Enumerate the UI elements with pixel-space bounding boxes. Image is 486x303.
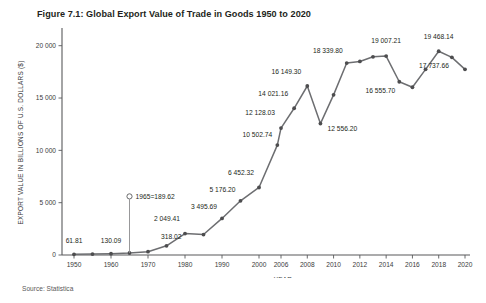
data-point-marker: [463, 67, 467, 71]
x-axis-title: YEAR: [274, 276, 293, 278]
data-point-label: 16 149.30: [272, 68, 302, 75]
data-point-marker: [109, 252, 113, 256]
x-tick-label: 2000: [252, 261, 267, 268]
x-tick-label: 2014: [379, 261, 394, 268]
x-tick-label: 2006: [274, 261, 289, 268]
data-point-label: 130.09: [101, 237, 122, 244]
y-tick-label: 5 000: [39, 199, 56, 206]
data-point-label: 61.81: [66, 237, 83, 244]
series-polyline: [74, 51, 465, 254]
data-point-label: 19 468.14: [424, 33, 454, 40]
data-point-marker: [220, 217, 224, 221]
data-point-marker: [202, 233, 206, 237]
x-tick-label: 1950: [67, 261, 82, 268]
figure-title: Figure 7.1: Global Export Value of Trade…: [37, 9, 311, 19]
y-tick-label: 10 000: [36, 147, 57, 154]
chart-axes: 05 00010 00015 00020 0001950196019701980…: [36, 28, 473, 268]
y-tick-label: 20 000: [36, 42, 57, 49]
data-point-marker: [437, 49, 441, 53]
x-axis-title-text: YEAR: [274, 276, 293, 278]
callout-circle-icon: [127, 194, 132, 199]
data-point-marker: [305, 84, 309, 88]
data-point-label: 318.02: [161, 233, 182, 240]
annotation-1965-callout: 1965=189.62: [127, 193, 175, 253]
data-point-marker: [91, 252, 95, 256]
data-point-label: 19 007.21: [371, 37, 401, 44]
data-point-marker: [239, 199, 243, 203]
data-point-label: 3 495.69: [191, 203, 217, 210]
y-axis-title: EXPORT VALUE IN BILLIONS OF U.S. DOLLARS…: [17, 60, 25, 224]
x-tick-label: 1970: [141, 261, 156, 268]
data-point-label: 10 502.74: [243, 131, 273, 138]
data-point-label: 12 128.03: [245, 109, 275, 116]
x-tick-label: 1960: [104, 261, 119, 268]
data-point-marker: [319, 122, 323, 126]
data-point-marker: [275, 143, 279, 147]
data-point-label: 16 555.70: [366, 87, 396, 94]
y-axis-title-text: EXPORT VALUE IN BILLIONS OF U.S. DOLLARS…: [17, 60, 25, 224]
line-chart: 05 00010 00015 00020 0001950196019701980…: [0, 22, 486, 278]
x-tick-label: 1990: [215, 261, 230, 268]
data-point-marker: [384, 54, 388, 58]
y-tick-label: 15 000: [36, 94, 57, 101]
data-point-marker: [411, 85, 415, 89]
data-series-export-value: [74, 51, 465, 254]
data-point-marker: [345, 61, 349, 65]
data-point-marker: [292, 106, 296, 110]
data-point-label: 14 021.16: [258, 90, 288, 97]
data-point-label: 6 452.32: [228, 169, 254, 176]
data-point-marker: [279, 126, 283, 130]
x-tick-label: 2010: [326, 261, 341, 268]
source-note: Source: Statistica: [22, 285, 73, 292]
data-point-label: 18 339.80: [313, 47, 343, 54]
data-point-marker: [397, 80, 401, 84]
data-point-label: 12 556.20: [327, 125, 357, 132]
data-point-label: 17 737.66: [419, 62, 449, 69]
data-point-markers: [72, 49, 467, 256]
data-point-marker: [183, 232, 187, 236]
data-point-marker: [257, 186, 261, 190]
data-point-labels: 61.81130.09318.022 049.413 495.695 176.2…: [66, 33, 454, 244]
figure-container: Figure 7.1: Global Export Value of Trade…: [0, 0, 486, 303]
data-point-label: 5 176.20: [209, 186, 235, 193]
x-tick-label: 2020: [458, 261, 473, 268]
data-point-marker: [72, 252, 76, 256]
data-point-marker: [358, 60, 362, 64]
data-point-marker: [332, 93, 336, 97]
x-tick-label: 2012: [353, 261, 368, 268]
data-point-label: 2 049.41: [154, 215, 180, 222]
y-tick-label: 0: [52, 251, 56, 258]
callout-label-1965: 1965=189.62: [136, 193, 176, 200]
x-tick-label: 1980: [178, 261, 193, 268]
data-point-marker: [146, 250, 150, 254]
x-tick-label: 2018: [431, 261, 446, 268]
x-tick-label: 2016: [405, 261, 420, 268]
data-point-marker: [450, 55, 454, 59]
data-point-marker: [371, 55, 375, 59]
data-point-marker: [165, 244, 169, 248]
x-tick-label: 2008: [300, 261, 315, 268]
